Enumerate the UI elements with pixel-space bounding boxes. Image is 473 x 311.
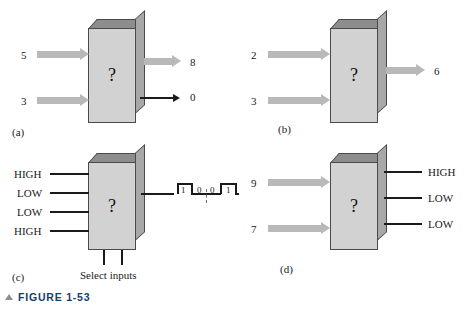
panel-d-block: ? [330,153,378,250]
panel-d-output-0-line [384,171,422,173]
panel-a-block: ? [88,19,136,123]
panel-c-input-3-label: HIGH [14,226,42,237]
panel-d-input-1-arrow-icon [268,222,330,235]
panel-c-input-2-label: LOW [17,207,42,218]
panel-d-output-1-label: LOW [428,193,453,204]
panel-c-waveform-level-1: 0 [197,186,202,195]
panel-d-letter: (d) [280,263,293,275]
panel-c-letter: (c) [12,271,24,283]
panel-c-select-caption: Select inputs [80,269,137,281]
panel-d-input-0-label: 9 [251,178,257,189]
panel-c-select-input-0-line [103,250,105,265]
panel-a-block-label: ? [88,28,136,123]
panel-d-block-label: ? [330,162,378,250]
panel-c-waveform-divider [206,189,207,203]
panel-c-output-line [141,193,174,195]
panel-d-output-2-line [384,223,422,225]
panel-c-block-label: ? [88,162,136,250]
panel-c-block: ? [88,153,136,250]
panel-b-output-0-label: 6 [434,66,440,77]
panel-b-input-1-label: 3 [251,96,257,107]
panel-b-letter: (b) [278,123,291,135]
panel-a-output-1-label: 0 [190,92,196,103]
figure-caption-text: FIGURE 1-53 [18,291,90,303]
panel-c-input-1-line [50,192,89,194]
panel-b-input-0-label: 2 [251,50,257,61]
panel-a-output-0-arrow-icon [144,55,184,68]
panel-b-input-1-arrow-icon [268,94,330,107]
panel-a-input-1-label: 3 [21,96,27,107]
panel-c-input-0-line [50,173,89,175]
panel-a-output-0-label: 8 [190,57,196,68]
panel-c-output-waveform: 1 0 0 1 [177,181,239,205]
panel-b-input-0-arrow-icon [268,48,330,61]
panel-c-input-0-label: HIGH [14,169,42,180]
panel-d-input-1-label: 7 [251,224,257,235]
panel-b-block: ? [330,19,378,123]
panel-b-block-label: ? [330,28,378,123]
panel-c-input-3-line [50,230,89,232]
box-side-face [377,144,387,241]
panel-c-waveform-level-0: 1 [181,186,186,195]
panel-b: ? 2 3 6 (b) [240,0,473,145]
panel-c-select-input-1-line [121,250,123,265]
panel-a-letter: (a) [12,126,24,138]
box-side-face [377,10,387,114]
panel-a: ? 5 3 8 0 (a) [0,0,240,145]
panel-d: ? 9 7 HIGH LOW LOW (d) [240,145,473,291]
panel-a-input-0-label: 5 [21,50,27,61]
panel-a-output-1-line [140,97,174,99]
panel-c-waveform-level-2: 0 [210,186,215,195]
panel-a-input-0-arrow-icon [37,48,89,61]
panel-d-output-2-label: LOW [428,219,453,230]
figure-1-53: ? 5 3 8 0 (a) ? [0,0,473,311]
panel-b-output-0-arrow-icon [386,64,428,77]
panel-c: ? HIGH LOW LOW HIGH Select inputs [0,145,240,291]
figure-caption: FIGURE 1-53 [5,291,90,303]
panel-d-output-1-line [384,197,422,199]
panel-c-input-1-label: LOW [17,188,42,199]
panel-a-output-1-arrow-icon [173,94,180,102]
triangle-up-icon [5,294,13,300]
panel-c-waveform-level-3: 1 [226,186,231,195]
panel-a-input-1-arrow-icon [37,94,89,107]
panel-d-output-0-label: HIGH [428,167,456,178]
panel-c-input-2-line [50,211,89,213]
panel-d-input-0-arrow-icon [268,176,330,189]
